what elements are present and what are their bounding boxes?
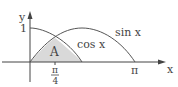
x-tick-pi4-denominator: 4 <box>53 76 59 86</box>
x-axis-label: x <box>167 63 174 76</box>
y-axis-arrow-icon <box>28 11 33 19</box>
y-tick-one-label: 1 <box>20 22 27 35</box>
diagram-canvas: y 1 x π π 4 A cos x sin x <box>0 0 178 87</box>
x-tick-pi-label: π <box>131 64 138 77</box>
region-a-label: A <box>49 45 59 59</box>
cos-curve-label: cos x <box>77 38 106 51</box>
x-tick-pi4-numerator: π <box>52 65 58 75</box>
sin-curve-label: sin x <box>115 26 142 39</box>
x-axis-arrow-icon <box>158 60 166 65</box>
sin-cos-area-diagram: y 1 x π π 4 A cos x sin x <box>0 0 178 87</box>
